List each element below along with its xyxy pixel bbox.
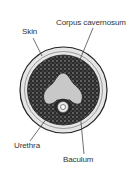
label-skin: Skin <box>22 27 37 36</box>
label-urethra: Urethra <box>14 141 40 150</box>
skin-leader-line <box>33 38 42 56</box>
label-corpus-cavernosum: Corpus cavernosum <box>56 18 126 27</box>
label-baculum: Baculum <box>63 155 93 164</box>
